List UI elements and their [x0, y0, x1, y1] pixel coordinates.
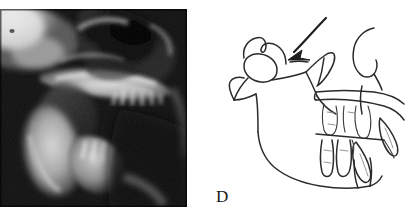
film-grain: [0, 9, 187, 207]
radiograph-svg: [0, 9, 187, 207]
anterior-ramus-trace: [306, 72, 336, 114]
occlusal-plane-trace: [316, 134, 384, 140]
figure-panel-d: D: [0, 0, 408, 221]
maxillary-molars-trace: [323, 104, 371, 139]
arrow-tail-stroke: [290, 61, 308, 62]
glenoid-fossa-trace: [244, 37, 286, 64]
radiograph-image: [0, 9, 187, 207]
condyle-pointer-arrow: [288, 18, 326, 60]
coronoid-process-trace: [272, 53, 335, 86]
panel-letter-label: D: [216, 188, 228, 205]
tracing-drawing: [204, 0, 408, 221]
maxillary-incisor-trace: [379, 118, 397, 156]
mandibular-molars-trace: [321, 140, 352, 177]
tracing-svg: [204, 0, 408, 221]
maxilla-palate-trace: [315, 91, 405, 121]
posterior-ramus-trace: [229, 77, 258, 132]
alveolar-crest-trace: [352, 140, 394, 158]
condylar-head-trace: [244, 54, 277, 82]
